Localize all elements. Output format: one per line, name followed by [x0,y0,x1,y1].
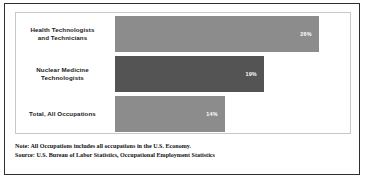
category-label: Total, All Occupations [16,110,115,118]
category-label-line2: Technologists [16,74,109,82]
category-label-line1: Nuclear Medicine [16,66,109,74]
bar-value-label: 26% [300,31,318,37]
category-label: Health Technologists and Technicians [16,26,115,42]
bar-value-label: 19% [245,71,263,77]
bar-total-all-occupations: 14% [115,96,225,132]
bar-track: 19% [115,56,350,92]
bar-health-technologists: 26% [115,16,319,52]
figure-frame: Health Technologists and Technicians 26%… [4,3,360,175]
category-label-line2: and Technicians [16,34,109,42]
footnote-note: Note: All Occupations includes all occup… [15,142,351,151]
bar-chart-panel: Health Technologists and Technicians 26%… [15,12,351,134]
bar-track: 14% [115,96,350,132]
bar-row: Total, All Occupations 14% [16,96,350,132]
footnote-source: Source: U.S. Bureau of Labor Statistics,… [15,151,351,160]
bar-row: Health Technologists and Technicians 26% [16,16,350,52]
bar-nuclear-medicine-technologists: 19% [115,56,264,92]
bar-row: Nuclear Medicine Technologists 19% [16,56,350,92]
footnote-block: Note: All Occupations includes all occup… [15,142,351,160]
bar-track: 26% [115,16,350,52]
category-label-line1: Total, All Occupations [16,110,109,118]
bar-value-label: 14% [206,111,224,117]
category-label-line1: Health Technologists [16,26,109,34]
category-label: Nuclear Medicine Technologists [16,66,115,82]
